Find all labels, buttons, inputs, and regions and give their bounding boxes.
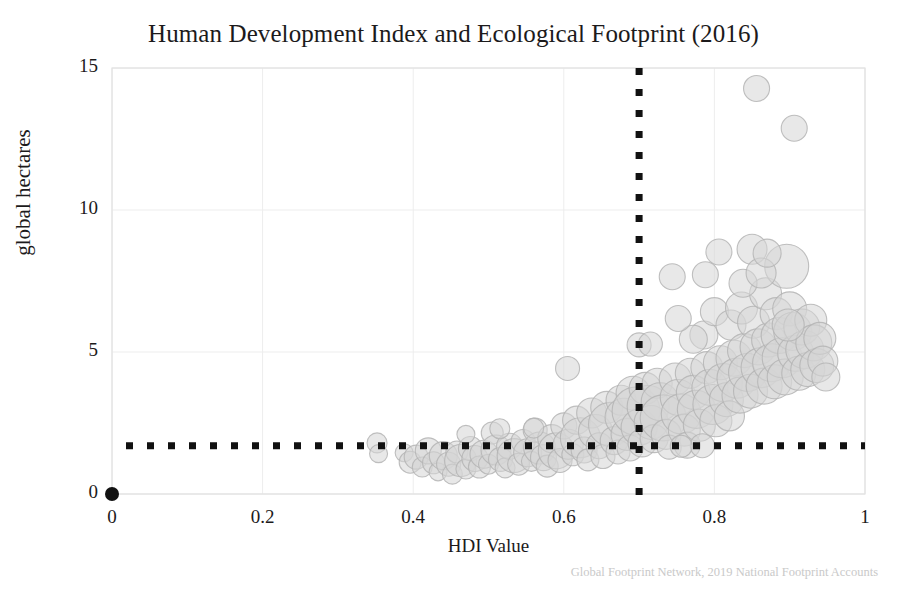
bubble-series	[367, 75, 840, 484]
origin-marker	[105, 487, 119, 501]
scatter-plot	[0, 0, 907, 594]
chart-canvas: Human Development Index and Ecological F…	[0, 0, 907, 594]
